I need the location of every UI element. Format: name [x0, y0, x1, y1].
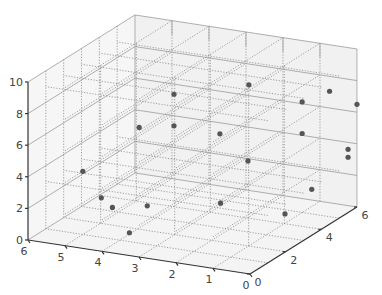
data-point	[300, 131, 305, 136]
x-tick-label: 1	[206, 273, 213, 286]
x-tick	[250, 274, 252, 277]
data-point	[217, 131, 222, 136]
scatter3d-chart: 012345602460246810	[0, 0, 382, 295]
y-tick-label: 2	[290, 254, 297, 267]
data-point	[171, 123, 176, 128]
data-point	[80, 169, 85, 174]
z-tick-label: 10	[9, 76, 23, 89]
x-tick-label: 0	[243, 279, 250, 292]
data-point	[345, 155, 350, 160]
data-point	[171, 92, 176, 97]
data-point	[246, 82, 251, 87]
z-tick-label: 4	[16, 171, 23, 184]
x-tick-label: 5	[58, 251, 65, 264]
z-tick-label: 0	[16, 234, 23, 247]
data-point	[345, 147, 350, 152]
data-point	[282, 211, 287, 216]
data-point	[145, 203, 150, 208]
data-point	[354, 102, 359, 107]
y-tick-label: 0	[255, 276, 262, 289]
data-point	[309, 187, 314, 192]
y-tick-label: 4	[326, 231, 333, 244]
x-tick-label: 4	[95, 256, 102, 269]
data-point	[99, 195, 104, 200]
data-point	[127, 230, 132, 235]
z-tick-label: 2	[16, 202, 23, 215]
data-point	[300, 99, 305, 104]
x-tick-label: 2	[169, 268, 176, 281]
z-tick-label: 8	[16, 108, 23, 121]
pane-walls	[28, 15, 357, 274]
data-point	[327, 89, 332, 94]
x-tick-label: 3	[132, 262, 139, 275]
z-tick-label: 6	[16, 139, 23, 152]
plot-area: 012345602460246810	[0, 0, 382, 295]
data-point	[110, 205, 115, 210]
data-point	[218, 201, 223, 206]
data-point	[137, 125, 142, 130]
y-tick-label: 6	[361, 209, 368, 222]
data-point	[245, 158, 250, 163]
